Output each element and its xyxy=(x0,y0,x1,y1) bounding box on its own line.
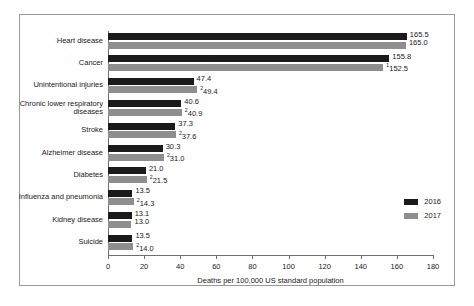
bar-row: Suicide13.5214.0 xyxy=(108,234,433,256)
legend-swatch xyxy=(404,213,418,219)
bar-value-label: 221.5 xyxy=(150,173,168,185)
bar-value-label: 165.0 xyxy=(409,39,428,47)
x-tick-label: 20 xyxy=(140,262,148,271)
bar-2016 xyxy=(108,235,132,242)
bar-row: Chronic lower respiratory diseases40.624… xyxy=(108,99,433,121)
bar-2017 xyxy=(108,198,134,205)
bar-2017 xyxy=(108,64,383,71)
bar-value-label: 21.0 xyxy=(149,165,164,173)
legend-item: 2016 xyxy=(404,196,441,207)
category-label: Heart disease xyxy=(0,37,103,46)
x-tick-label: 160 xyxy=(391,262,404,271)
footnote-marker: 2 xyxy=(167,152,170,158)
bar-value-label: 13.5 xyxy=(135,187,150,195)
bar-2016 xyxy=(108,145,163,152)
bar-value-label: 40.6 xyxy=(184,98,199,106)
bar-2016 xyxy=(108,78,194,85)
legend-label: 2016 xyxy=(424,197,441,206)
plot-area: 020406080100120140160180 Heart disease16… xyxy=(108,31,433,255)
x-tick xyxy=(433,255,434,259)
x-axis-title: Deaths per 100,000 US standard populatio… xyxy=(108,276,433,285)
footnote-marker: 1 xyxy=(386,62,389,68)
category-label: Suicide xyxy=(0,238,103,247)
legend-item: 2017 xyxy=(404,210,441,221)
bar-row: Heart disease165.5165.0 xyxy=(108,32,433,54)
bar-row: Unintentional injuries47.4249.4 xyxy=(108,77,433,99)
bar-value-label: 214.0 xyxy=(136,241,154,253)
footnote-marker: 2 xyxy=(137,197,140,203)
legend-label: 2017 xyxy=(424,211,441,220)
bar-2017 xyxy=(108,42,406,49)
footnote-marker: 2 xyxy=(200,85,203,91)
bar-2016 xyxy=(108,33,407,40)
bar-value-label: 214.3 xyxy=(137,196,155,208)
x-tick-label: 120 xyxy=(318,262,331,271)
footnote-marker: 2 xyxy=(185,107,188,113)
category-label: Unintentional injuries xyxy=(0,81,103,90)
bar-2016 xyxy=(108,55,389,62)
category-label: Kidney disease xyxy=(0,216,103,225)
x-tick-label: 140 xyxy=(355,262,368,271)
bar-value-label: 37.3 xyxy=(178,120,193,128)
bar-2017 xyxy=(108,176,147,183)
footnote-marker: 2 xyxy=(150,174,153,180)
bar-value-label: 13.5 xyxy=(135,232,150,240)
bar-row: Cancer155.81152.5 xyxy=(108,54,433,76)
bar-2016 xyxy=(108,190,132,197)
bar-row: Stroke37.3237.6 xyxy=(108,122,433,144)
bar-2017 xyxy=(108,109,182,116)
bar-value-label: 237.6 xyxy=(179,129,197,141)
bar-2016 xyxy=(108,212,132,219)
bar-row: Kidney disease13.113.0 xyxy=(108,211,433,233)
bar-2016 xyxy=(108,167,146,174)
bar-2016 xyxy=(108,123,175,130)
chart-figure: 020406080100120140160180 Heart disease16… xyxy=(19,14,455,286)
bar-value-label: 1152.5 xyxy=(386,61,408,73)
category-label: Diabetes xyxy=(0,171,103,180)
bar-value-label: 231.0 xyxy=(167,151,185,163)
bar-2016 xyxy=(108,100,181,107)
footnote-marker: 2 xyxy=(179,130,182,136)
bar-value-label: 13.0 xyxy=(134,218,149,226)
bar-value-label: 155.8 xyxy=(392,53,411,61)
x-tick-label: 40 xyxy=(176,262,184,271)
bar-2017 xyxy=(108,154,164,161)
category-label: Stroke xyxy=(0,126,103,135)
category-label: Cancer xyxy=(0,59,103,68)
x-tick-label: 60 xyxy=(212,262,220,271)
bar-2017 xyxy=(108,221,131,228)
bar-row: Influenza and pneumonia13.5214.3 xyxy=(108,189,433,211)
bar-2017 xyxy=(108,131,176,138)
category-label: Chronic lower respiratory diseases xyxy=(0,100,103,117)
bar-value-label: 47.4 xyxy=(197,75,212,83)
bar-2017 xyxy=(108,86,197,93)
x-tick-label: 180 xyxy=(427,262,440,271)
x-tick-label: 0 xyxy=(106,262,110,271)
x-tick-label: 100 xyxy=(282,262,295,271)
bar-value-label: 249.4 xyxy=(200,84,218,96)
bar-value-label: 30.3 xyxy=(166,143,181,151)
category-label: Influenza and pneumonia xyxy=(0,193,103,202)
bar-2017 xyxy=(108,243,133,250)
bar-row: Diabetes21.0221.5 xyxy=(108,166,433,188)
x-tick-label: 80 xyxy=(248,262,256,271)
chart-legend: 20162017 xyxy=(404,196,441,224)
legend-swatch xyxy=(404,199,418,205)
category-label: Alzheimer disease xyxy=(0,149,103,158)
bar-value-label: 240.9 xyxy=(185,106,203,118)
footnote-marker: 2 xyxy=(136,242,139,248)
